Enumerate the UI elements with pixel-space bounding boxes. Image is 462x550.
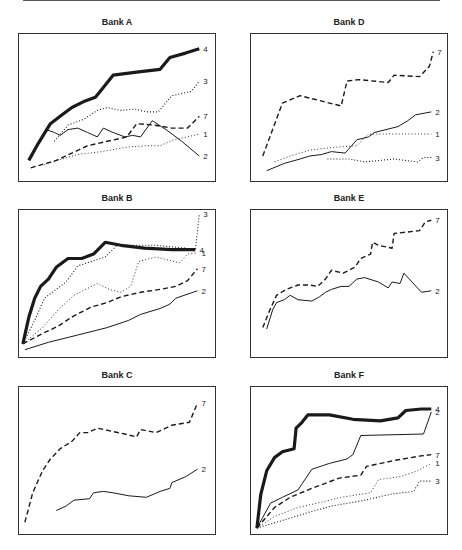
line-chart: 42713 (251, 387, 447, 534)
series-label-2: 2 (435, 108, 440, 117)
series-line-2 (267, 273, 432, 329)
series-line-2 (33, 121, 200, 156)
panel-bank-e: Bank E72 (250, 193, 448, 365)
line-chart: 72 (251, 210, 447, 357)
series-label-1: 1 (435, 459, 440, 468)
series-label-7: 7 (203, 112, 208, 121)
panel-title: Bank B (18, 193, 216, 207)
series-line-2 (257, 412, 431, 528)
panel-bank-a: Bank A43712 (18, 17, 216, 189)
series-line-3 (54, 81, 199, 141)
series-line-4 (29, 49, 200, 161)
series-line-3 (327, 158, 431, 162)
series-line-4 (257, 409, 431, 528)
series-line-3 (257, 481, 431, 528)
series-label-1: 1 (201, 249, 206, 258)
line-chart: 43172 (19, 210, 215, 357)
series-line-2 (25, 291, 198, 350)
series-label-3: 3 (203, 77, 208, 86)
panel-title: Bank E (250, 193, 448, 207)
panel-bank-c: Bank C72 (18, 370, 216, 542)
panel-bank-f: Bank F42713 (250, 370, 448, 542)
series-label-2: 2 (203, 152, 208, 161)
series-label-2: 2 (435, 408, 440, 417)
series-label-7: 7 (437, 48, 442, 57)
series-line-1 (275, 134, 432, 162)
series-label-2: 2 (201, 465, 206, 474)
series-label-7: 7 (201, 265, 206, 274)
series-label-1: 1 (203, 130, 208, 139)
series-line-7 (263, 220, 432, 327)
panel-title: Bank C (18, 370, 216, 384)
series-line-7 (25, 403, 198, 522)
series-line-1 (23, 253, 198, 344)
plot-area: 43172 (18, 209, 216, 358)
series-line-7 (31, 116, 200, 168)
series-label-7: 7 (435, 451, 440, 460)
panel-bank-d: Bank D7213 (250, 17, 448, 189)
series-label-2: 2 (435, 287, 440, 296)
plot-area: 43712 (18, 33, 216, 182)
series-label-7: 7 (435, 216, 440, 225)
series-label-2: 2 (201, 287, 206, 296)
plot-area: 72 (18, 386, 216, 535)
line-chart: 7213 (251, 34, 447, 181)
series-line-4 (23, 242, 196, 343)
series-line-2 (56, 469, 197, 510)
line-chart: 43712 (19, 34, 215, 181)
series-line-2 (267, 112, 432, 171)
line-chart: 72 (19, 387, 215, 534)
series-label-3: 3 (435, 477, 440, 486)
panel-title: Bank D (250, 17, 448, 31)
panel-title: Bank A (18, 17, 216, 31)
series-label-7: 7 (201, 399, 206, 408)
series-line-1 (257, 463, 431, 528)
top-rule (23, 0, 440, 1)
panel-bank-b: Bank B43172 (18, 193, 216, 365)
series-line-7 (263, 52, 434, 156)
series-label-4: 4 (203, 45, 208, 54)
plot-area: 42713 (250, 386, 448, 535)
series-label-3: 3 (203, 210, 208, 219)
series-label-3: 3 (435, 154, 440, 163)
plot-area: 7213 (250, 33, 448, 182)
series-label-1: 1 (435, 130, 440, 139)
plot-area: 72 (250, 209, 448, 358)
panel-title: Bank F (250, 370, 448, 384)
series-line-7 (257, 455, 431, 528)
